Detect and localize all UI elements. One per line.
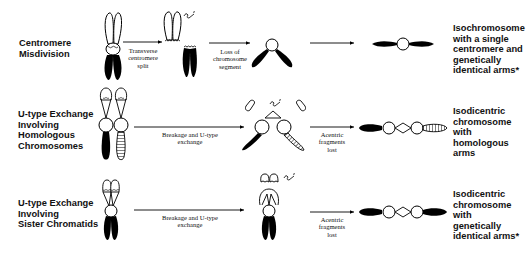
row2-step1-label: Breakage and U-type exchange <box>150 131 230 146</box>
row3-title-line: Involving <box>18 209 98 220</box>
row1-initial-chromosome <box>105 13 122 80</box>
arrow-label-line: chromosome <box>208 55 252 62</box>
result-line: identical arms* <box>453 231 519 242</box>
result-line: genetically <box>453 221 519 232</box>
row2-title-line: Homologous <box>18 130 93 141</box>
row1-split-chromosome <box>164 11 197 77</box>
row1-title: Centromere Misdivision <box>19 38 71 59</box>
result-line: Isochromosome <box>453 23 525 34</box>
result-line: with <box>453 210 519 221</box>
row1-result-label: Isochromosome with a single centromere a… <box>453 23 525 76</box>
row2-title-line: Chromosomes <box>18 141 93 152</box>
arrow-label-line: exchange <box>150 138 230 145</box>
result-line: chromosome <box>453 117 511 128</box>
row2-step2-label: Acentric fragments lost <box>312 131 352 153</box>
row1-title-line: Misdivision <box>19 49 71 60</box>
row3-title-line: Sister Chromatids <box>18 219 98 230</box>
result-line: Isodicentric <box>453 106 511 117</box>
row3-step1-label: Breakage and U-type exchange <box>150 214 230 229</box>
row3-initial-chromosome <box>103 180 120 240</box>
arrow-label-line: Acentric <box>312 216 352 223</box>
row2-isodicentric <box>359 122 447 134</box>
result-line: Isodicentric <box>453 189 519 200</box>
row2-title-line: Involving <box>18 120 93 131</box>
result-line: identical arms* <box>453 65 525 76</box>
row2-exchange-figure <box>242 99 306 150</box>
result-line: with a single <box>453 34 525 45</box>
row3-step2-label: Acentric fragments lost <box>312 216 352 238</box>
row2-result-label: Isodicentric chromosome with homologous … <box>453 106 511 159</box>
row3-title-line: U-type Exchange <box>18 198 98 209</box>
arrow-label-line: exchange <box>150 221 230 228</box>
arrow-label-line: segment <box>208 63 252 70</box>
row1-title-line: Centromere <box>19 38 71 49</box>
row3-isodicentric <box>359 206 447 218</box>
arrow-label-line: Breakage and U-type <box>150 131 230 138</box>
row2-title: U-type Exchange Involving Homologous Chr… <box>18 109 93 151</box>
arrow-label-line: Acentric <box>312 131 352 138</box>
row1-step1-label: Transverse centromere split <box>124 47 162 69</box>
arrow-label-line: Loss of <box>208 48 252 55</box>
row2-title-line: U-type Exchange <box>18 109 93 120</box>
result-line: homologous <box>453 138 511 149</box>
arrow-label-line: split <box>124 62 162 69</box>
arrow-label-line: centromere <box>124 54 162 61</box>
row2-chromosome-black <box>99 88 113 160</box>
arrow-label-line: lost <box>312 146 352 153</box>
arrow-label-line: lost <box>312 231 352 238</box>
row1-isochromosome <box>372 38 434 50</box>
result-line: arms <box>453 148 511 159</box>
arrow-label-line: Breakage and U-type <box>150 214 230 221</box>
row3-exchange-figure <box>259 173 295 240</box>
arrow-label-line: Transverse <box>124 47 162 54</box>
result-line: centromere and <box>453 44 525 55</box>
row3-title: U-type Exchange Involving Sister Chromat… <box>18 198 98 230</box>
result-line: chromosome <box>453 200 519 211</box>
row1-v-chromosome <box>252 39 293 67</box>
row3-result-label: Isodicentric chromosome with genetically… <box>453 189 519 242</box>
arrow-label-line: fragments <box>312 223 352 230</box>
row2-chromosome-hatched <box>114 88 128 160</box>
result-line: with <box>453 127 511 138</box>
row1-step2-label: Loss of chromosome segment <box>208 48 252 70</box>
arrow-label-line: fragments <box>312 138 352 145</box>
result-line: genetically <box>453 55 525 66</box>
